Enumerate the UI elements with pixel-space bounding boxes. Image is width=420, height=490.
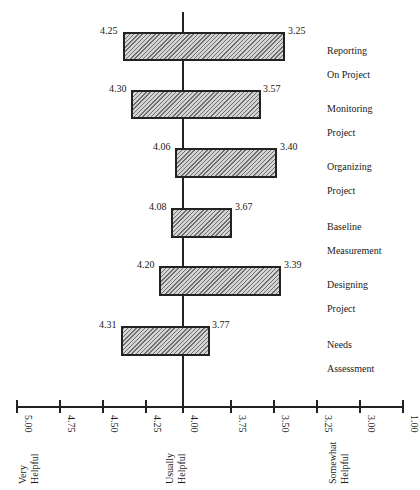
bar-left-value: 4.20 bbox=[137, 260, 155, 270]
anchor-line: Helpful bbox=[176, 453, 188, 484]
bar-reporting-on-project bbox=[123, 32, 285, 61]
x-tick-label: 3.25 bbox=[323, 415, 334, 433]
bar-left-value: 4.08 bbox=[149, 202, 167, 212]
bar-monitoring-project bbox=[131, 90, 261, 119]
category-line: Assessment bbox=[327, 363, 412, 375]
x-tick-label: 3.50 bbox=[280, 415, 291, 433]
bar-left-value: 4.06 bbox=[153, 142, 171, 152]
x-tick-label: 4.25 bbox=[152, 415, 163, 433]
bar-right-value: 3.39 bbox=[284, 260, 302, 270]
category-label: Reporting On Project bbox=[327, 33, 412, 93]
anchor-very-helpful: Very Helpful bbox=[17, 453, 41, 484]
x-tick-label: 4.75 bbox=[66, 415, 77, 433]
bar-left-value: 4.25 bbox=[100, 26, 118, 36]
x-tick bbox=[230, 400, 232, 413]
anchor-somewhat-helpful: Somewhat Helpful bbox=[327, 442, 351, 484]
category-line: Baseline bbox=[327, 221, 412, 233]
bar-right-value: 3.57 bbox=[263, 84, 281, 94]
x-tick bbox=[145, 400, 147, 413]
bar-right-value: 3.67 bbox=[235, 202, 253, 212]
anchor-line: Usually bbox=[164, 453, 176, 484]
bar-right-value: 3.25 bbox=[288, 26, 306, 36]
category-line: On Project bbox=[327, 69, 412, 81]
bar-organizing-project bbox=[175, 148, 277, 178]
category-label: Organizing Project bbox=[327, 149, 412, 209]
x-tick-label: 3.00 bbox=[366, 415, 377, 433]
bar-baseline-measurement bbox=[171, 208, 232, 238]
bar-right-value: 3.77 bbox=[212, 320, 230, 330]
anchor-line: Helpful bbox=[339, 442, 351, 484]
x-tick-label: 4.50 bbox=[109, 415, 120, 433]
category-label: Monitoring Project bbox=[327, 91, 412, 151]
category-line: Organizing bbox=[327, 161, 412, 173]
x-tick bbox=[102, 400, 104, 413]
x-tick bbox=[402, 400, 404, 413]
bar-left-value: 4.30 bbox=[109, 84, 127, 94]
x-tick bbox=[316, 400, 318, 413]
x-tick-label: 3.75 bbox=[237, 415, 248, 433]
bar-designing-project bbox=[159, 266, 281, 296]
x-tick bbox=[182, 400, 184, 413]
anchor-usually-helpful: Usually Helpful bbox=[164, 453, 188, 484]
anchor-line: Very bbox=[17, 453, 29, 484]
anchor-line: Helpful bbox=[29, 453, 41, 484]
category-label: Needs Assessment bbox=[327, 327, 412, 387]
bar-right-value: 3.40 bbox=[280, 142, 298, 152]
x-tick-label: 4.00 bbox=[189, 415, 200, 433]
category-line: Monitoring bbox=[327, 103, 412, 115]
x-tick-label: 1.00 bbox=[409, 415, 420, 433]
x-tick-label: 5.00 bbox=[23, 415, 34, 433]
x-axis-line bbox=[16, 406, 403, 408]
category-line: Needs bbox=[327, 339, 412, 351]
category-line: Measurement bbox=[327, 245, 412, 257]
category-line: Project bbox=[327, 127, 412, 139]
category-line: Reporting bbox=[327, 45, 412, 57]
anchor-line: Somewhat bbox=[327, 442, 339, 484]
x-tick bbox=[359, 400, 361, 413]
bar-needs-assessment bbox=[121, 326, 210, 356]
x-tick bbox=[16, 400, 18, 413]
category-label: Baseline Measurement bbox=[327, 209, 412, 269]
category-label: Designing Project bbox=[327, 267, 412, 327]
category-line: Project bbox=[327, 303, 412, 315]
bar-left-value: 4.31 bbox=[99, 320, 117, 330]
x-tick bbox=[59, 400, 61, 413]
category-line: Project bbox=[327, 185, 412, 197]
category-line: Designing bbox=[327, 279, 412, 291]
x-tick bbox=[273, 400, 275, 413]
